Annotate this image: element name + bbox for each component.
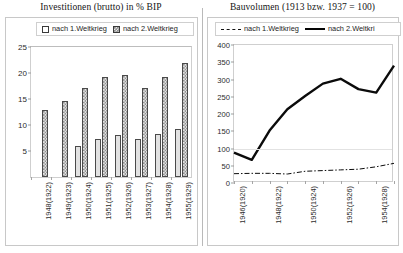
right-chart-title: Bauvolumen (1913 bzw. 1937 = 100): [202, 2, 403, 12]
x-tick-label: 1953(1927): [144, 182, 153, 220]
bar: [162, 77, 168, 177]
x-tick-mark: [376, 181, 377, 184]
bar: [122, 75, 128, 177]
y-tick-mark: [231, 114, 234, 115]
bar: [155, 134, 161, 177]
x-tick-mark: [323, 181, 324, 184]
right-chart-plot-area: 1946(1920)1948(1922)1950(1924)1952(1926)…: [233, 44, 393, 182]
bar: [182, 63, 188, 177]
dash-dot-line-icon: [221, 29, 241, 30]
y-tick-mark: [231, 165, 234, 166]
right-chart-panel: Bauvolumen (1913 bzw. 1937 = 100) nach 1…: [202, 0, 403, 253]
x-tick-label: 1950(1924): [309, 186, 318, 224]
bar: [115, 135, 121, 177]
x-tick-label: 1954(1928): [164, 182, 173, 220]
left-x-axis-labels: 1948(1922)1949(1923)1950(1924)1951(1925)…: [31, 177, 191, 247]
y-tick-label: 300: [217, 75, 230, 84]
legend-label-r1: nach 1.Weltkrieg: [244, 25, 299, 32]
y-tick-label: 20: [18, 69, 27, 78]
x-tick-mark: [270, 181, 271, 184]
x-tick-label: 1955(1929): [184, 182, 193, 220]
bar: [102, 77, 108, 177]
x-tick-label: 1951(1925): [104, 182, 113, 220]
x-tick-mark: [234, 181, 235, 184]
bar-group: [31, 47, 51, 177]
x-tick-label: 1946(1920): [238, 186, 247, 224]
x-tick-mark: [358, 181, 359, 184]
x-tick-label: 1948(1922): [274, 186, 283, 224]
y-tick-label: 400: [217, 41, 230, 50]
x-tick-label: 1949(1923): [64, 182, 73, 220]
y-tick-mark: [28, 151, 31, 152]
bar: [75, 146, 81, 177]
bar-group: [111, 47, 131, 177]
y-tick-label: 100: [217, 144, 230, 153]
bar-group: [71, 47, 91, 177]
y-tick-label: 0: [226, 179, 230, 188]
x-tick-mark: [151, 177, 152, 180]
bar-group: [51, 47, 71, 177]
y-tick-label: 350: [217, 58, 230, 67]
figure-two-charts: Investitionen (brutto) in % BIP nach 1.W…: [0, 0, 403, 253]
x-tick-mark: [341, 181, 342, 184]
x-tick-mark: [252, 181, 253, 184]
y-tick-mark: [231, 62, 234, 63]
right-x-axis-labels: 1946(1920)1948(1922)1950(1924)1952(1926)…: [234, 181, 392, 251]
x-tick-mark: [71, 177, 72, 180]
left-chart-title: Investitionen (brutto) in % BIP: [0, 2, 202, 12]
y-tick-label: 15: [18, 95, 27, 104]
x-tick-label: 1950(1924): [84, 182, 93, 220]
legend-item-nach-2-weltkrieg: nach 2.Weltkrieg: [113, 25, 178, 32]
bar: [42, 110, 48, 177]
y-tick-mark: [231, 79, 234, 80]
x-tick-label: 1948(1922): [44, 182, 53, 220]
right-chart-legend: nach 1.Weltkrieg nach 2.Weltkri: [215, 22, 401, 36]
y-tick-mark: [231, 131, 234, 132]
y-tick-mark: [231, 45, 234, 46]
x-tick-mark: [394, 181, 395, 184]
bar: [175, 129, 181, 177]
y-tick-label: 10: [18, 121, 27, 130]
y-tick-mark: [28, 125, 31, 126]
x-tick-label: 1952(1926): [124, 182, 133, 220]
line-series-container: [234, 45, 394, 183]
x-tick-mark: [51, 177, 52, 180]
legend-item-nach-1-weltkrieg: nach 1.Weltkrieg: [42, 25, 107, 32]
y-tick-label: 25: [18, 43, 27, 52]
bar-group: [91, 47, 111, 177]
bar: [82, 88, 88, 177]
y-tick-label: 50: [222, 161, 230, 170]
grid-line: [234, 149, 392, 150]
x-tick-mark: [171, 177, 172, 180]
y-tick-mark: [28, 73, 31, 74]
white-square-icon: [42, 26, 49, 33]
bar: [135, 139, 141, 177]
legend-item-nach-1-weltkrieg-line: nach 1.Weltkrieg: [221, 25, 299, 32]
y-tick-label: 200: [217, 110, 230, 119]
bar: [62, 101, 68, 177]
left-chart-plot-area: 1948(1922)1949(1923)1950(1924)1951(1925)…: [30, 46, 192, 178]
x-tick-mark: [91, 177, 92, 180]
y-tick-mark: [28, 47, 31, 48]
y-tick-mark: [231, 96, 234, 97]
legend-label-2: nach 2.Weltkrieg: [123, 25, 178, 32]
x-tick-mark: [31, 177, 32, 180]
bar-series-container: [31, 47, 191, 177]
x-tick-label: 1954(1928): [380, 186, 389, 224]
y-tick-label: 150: [217, 127, 230, 136]
x-tick-mark: [111, 177, 112, 180]
legend-label-1: nach 1.Weltkrieg: [52, 25, 107, 32]
legend-item-nach-2-weltkrieg-line: nach 2.Weltkri: [305, 25, 375, 32]
y-tick-mark: [28, 99, 31, 100]
x-tick-mark: [131, 177, 132, 180]
left-chart-legend: nach 1.Weltkrieg nach 2.Weltkrieg: [36, 22, 194, 36]
y-tick-label: 5: [23, 147, 27, 156]
x-tick-mark: [287, 181, 288, 184]
x-tick-mark: [305, 181, 306, 184]
hatched-square-icon: [113, 26, 120, 33]
bar-group: [131, 47, 151, 177]
bar: [142, 88, 148, 177]
line-series: [234, 66, 394, 160]
x-tick-label: 1952(1926): [345, 186, 354, 224]
bar-group: [151, 47, 171, 177]
